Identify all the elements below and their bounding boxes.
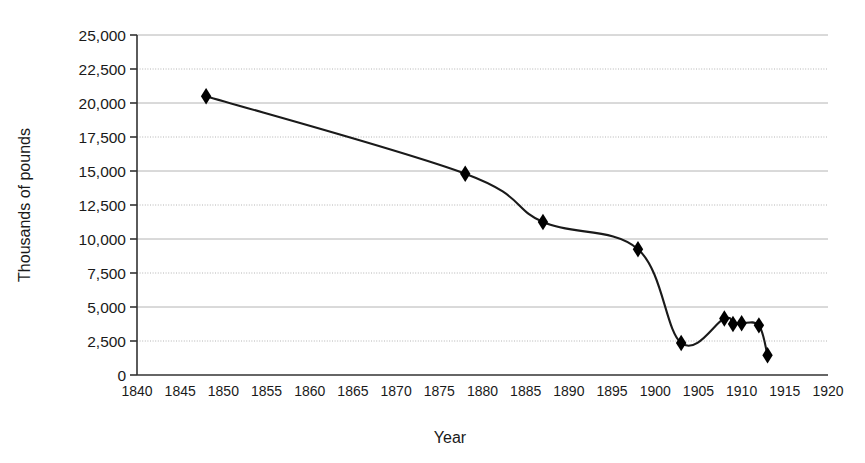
x-tick-label: 1850	[208, 383, 239, 399]
data-point-marker	[762, 347, 772, 363]
y-axis-title: Thousands of pounds	[16, 128, 33, 282]
y-tick-label: 2,500	[87, 333, 126, 350]
y-tick-label: 22,500	[79, 61, 127, 78]
y-tick-label: 7,500	[87, 265, 126, 282]
y-tick-label: 25,000	[79, 27, 127, 44]
x-tick-label: 1900	[640, 383, 671, 399]
data-point-marker	[736, 315, 746, 331]
y-tick-label: 12,500	[79, 197, 127, 214]
y-tick-label: 17,500	[79, 129, 127, 146]
data-point-marker	[538, 214, 548, 230]
x-tick-label: 1855	[251, 383, 282, 399]
x-tick-label: 1870	[381, 383, 412, 399]
line-chart: 02,5005,0007,50010,00012,50015,00017,500…	[0, 0, 865, 463]
x-tick-label: 1920	[812, 383, 843, 399]
y-axis-ticks: 02,5005,0007,50010,00012,50015,00017,500…	[79, 27, 137, 384]
x-tick-label: 1910	[726, 383, 757, 399]
x-tick-label: 1895	[596, 383, 627, 399]
x-tick-label: 1905	[683, 383, 714, 399]
y-tick-label: 5,000	[87, 299, 126, 316]
x-tick-label: 1865	[337, 383, 368, 399]
data-series-layer	[201, 88, 773, 363]
x-tick-label: 1875	[424, 383, 455, 399]
data-point-marker	[633, 241, 643, 257]
x-axis-title: Year	[434, 429, 467, 446]
chart-figure: 02,5005,0007,50010,00012,50015,00017,500…	[0, 0, 865, 463]
y-tick-label: 10,000	[79, 231, 127, 248]
x-tick-label: 1845	[165, 383, 196, 399]
data-point-marker	[460, 166, 470, 182]
x-tick-label: 1915	[769, 383, 800, 399]
gridlines-group	[137, 35, 828, 341]
y-tick-label: 15,000	[79, 163, 127, 180]
x-tick-label: 1890	[553, 383, 584, 399]
series-line	[206, 96, 767, 355]
x-tick-label: 1885	[510, 383, 541, 399]
x-tick-label: 1880	[467, 383, 498, 399]
x-axis-ticks: 1840184518501855186018651870187518801885…	[121, 383, 843, 399]
x-tick-label: 1860	[294, 383, 325, 399]
y-tick-label: 0	[117, 367, 126, 384]
data-point-marker	[201, 88, 211, 104]
x-tick-label: 1840	[121, 383, 152, 399]
y-tick-label: 20,000	[79, 95, 127, 112]
